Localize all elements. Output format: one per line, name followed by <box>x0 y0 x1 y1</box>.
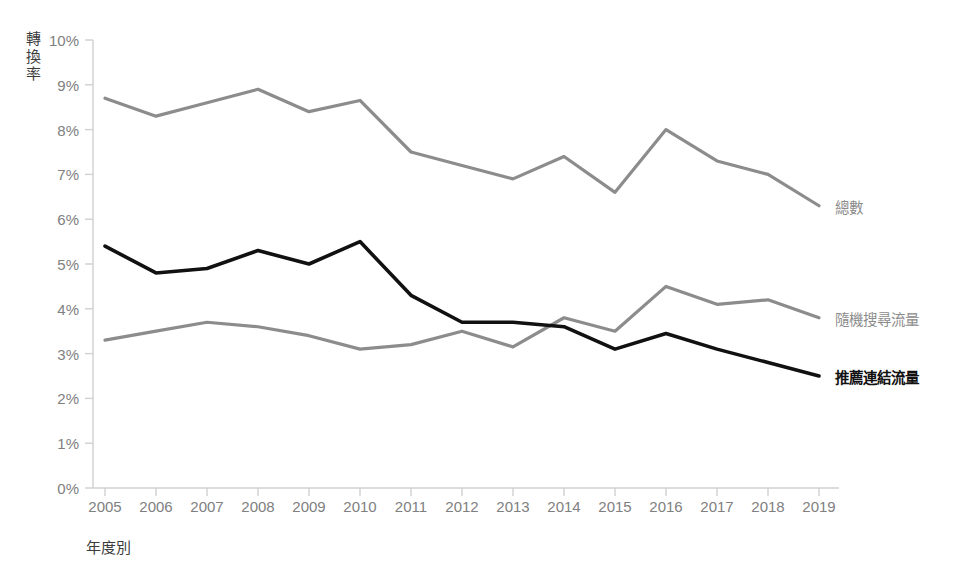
series-label-0: 總數 <box>835 195 863 216</box>
series-line-1 <box>105 286 819 349</box>
plot-area <box>0 0 970 578</box>
series-line-2 <box>105 242 819 376</box>
series-label-2: 推薦連結流量 <box>835 366 919 387</box>
series-label-1: 隨機搜尋流量 <box>835 307 919 328</box>
series-lines <box>105 89 819 376</box>
series-line-0 <box>105 89 819 205</box>
conversion-rate-line-chart: 轉換率 年度別 0%1%2%3%4%5%6%7%8%9%10% 20052006… <box>0 0 970 578</box>
